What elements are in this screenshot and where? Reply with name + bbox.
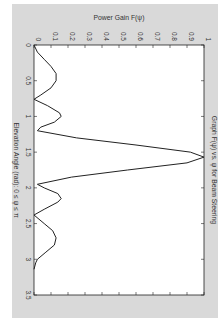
gain-tick-label: 0.6: [137, 32, 144, 41]
gain-tick-label: 0.9: [188, 32, 195, 41]
plot-area: [34, 45, 204, 295]
gain-tick-label: 0.3: [86, 32, 93, 41]
y-axis-title: Power Gain F(ψ): [94, 14, 145, 22]
figure: 00.10.20.30.40.50.60.70.80.9100.511.522.…: [0, 0, 220, 322]
angle-tick-label: 2.5: [25, 219, 32, 228]
gain-tick-label: 0.7: [154, 32, 161, 41]
gain-tick-label: 1: [205, 37, 212, 41]
gain-tick-label: 0.8: [171, 32, 178, 41]
gain-tick-label: 0.2: [69, 32, 76, 41]
gain-tick-label: 0.4: [103, 32, 110, 41]
angle-tick-label: 1.5: [25, 148, 32, 157]
x-axis-title: Elevation Angle (rad): 0 ≤ ψ ≤ π: [12, 122, 20, 218]
chart-title: Graph F(ψ) vs. ψ for Beam Steering: [210, 116, 218, 224]
angle-tick-label: 3: [25, 257, 32, 261]
gain-tick-label: 0: [35, 37, 42, 41]
angle-tick-label: 3.5: [25, 290, 32, 299]
angle-tick-label: 2: [25, 186, 32, 190]
angle-tick-label: 0.5: [25, 76, 32, 85]
angle-tick-label: 0: [25, 43, 32, 47]
angle-tick-label: 1: [25, 115, 32, 119]
gain-tick-label: 0.1: [52, 32, 59, 41]
gain-tick-label: 0.5: [120, 32, 127, 41]
